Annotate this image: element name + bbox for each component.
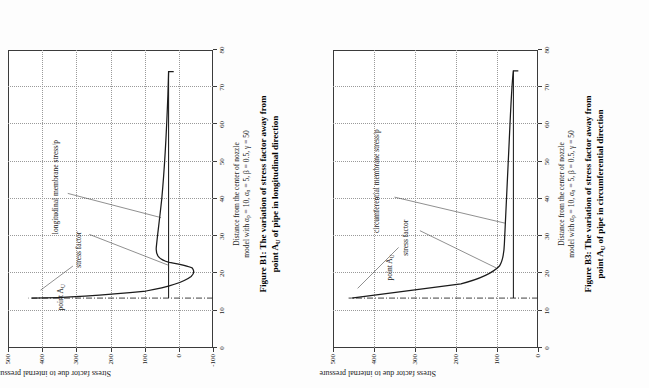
leader-membrane-b3 — [395, 197, 506, 223]
caption-line2-b3: model with αp = 10, αn = 5, β = 0.5, γ =… — [567, 6, 578, 382]
tick-x-10-b3 — [538, 310, 542, 311]
tick-x-60-b3 — [538, 124, 542, 125]
xticklabel-0-b3: 0 — [543, 346, 551, 350]
tick-x-70 — [213, 86, 217, 87]
yticklabel-n100: -100 — [209, 354, 217, 367]
leader-membrane-b1 — [68, 193, 161, 217]
yticklabel-500-b3: 500 — [329, 354, 337, 365]
tick-x-80-b3 — [538, 49, 542, 50]
yticklabel-200-b3: 200 — [452, 354, 460, 365]
tick-x-60 — [213, 124, 217, 125]
rotated-figure-b3: 0 10 20 30 40 50 60 70 80 500 400 300 20… — [325, 0, 649, 388]
tick-y-400-b3 — [374, 348, 375, 352]
yticklabel-400-b3: 400 — [370, 354, 378, 365]
yticklabel-100: 100 — [141, 354, 149, 365]
xticklabel-60: 60 — [218, 121, 226, 128]
plot-area-b1: 0 10 20 30 40 50 60 70 80 500 400 300 — [8, 50, 213, 348]
tick-x-50 — [213, 161, 217, 162]
yticklabel-300: 300 — [72, 354, 80, 365]
yticklabel-500: 500 — [4, 354, 12, 365]
annotation-point-au-b3: point AU — [386, 255, 395, 281]
tick-x-50-b3 — [538, 161, 542, 162]
tick-y-100-b3 — [497, 348, 498, 352]
tick-y-200-b3 — [456, 348, 457, 352]
annotation-membrane-b1: longitudinal membrane stress/p — [51, 140, 60, 234]
caption-main-a-b3: Figure B3: The variation of stress facto… — [583, 6, 595, 382]
annotation-stress-factor-b3: stress factor — [400, 220, 409, 256]
tick-y-100 — [145, 348, 146, 352]
caption-line2-b1: model with αp = 10, αn = 5, β = 0.5, γ =… — [242, 6, 253, 382]
tick-y-200 — [111, 348, 112, 352]
plot-area-b3: 0 10 20 30 40 50 60 70 80 500 400 300 20… — [333, 50, 538, 348]
rotated-figure-b1: 0 10 20 30 40 50 60 70 80 500 400 300 — [0, 0, 324, 388]
xticklabel-70: 70 — [218, 84, 226, 91]
tick-x-10 — [213, 310, 217, 311]
xticklabel-0: 0 — [218, 346, 226, 350]
yticklabel-300-b3: 300 — [411, 354, 419, 365]
curve-layer-b1 — [8, 50, 213, 348]
tick-y-500 — [8, 348, 9, 352]
tick-y-0 — [179, 348, 180, 352]
annotation-stress-factor-b1: stress factor — [73, 232, 82, 268]
tick-y-0-b3 — [538, 348, 539, 352]
caption-line1-b1: Distance from the center of nozzle — [232, 6, 242, 382]
tick-x-20 — [213, 273, 217, 274]
figure-page: 0 10 20 30 40 50 60 70 80 500 400 300 — [0, 0, 649, 388]
tick-x-40-b3 — [538, 198, 542, 199]
xticklabel-10-b3: 10 — [543, 307, 551, 314]
xticklabel-50-b3: 50 — [543, 158, 551, 165]
xticklabel-40: 40 — [218, 196, 226, 203]
xticklabel-20: 20 — [218, 270, 226, 277]
xticklabel-80: 80 — [218, 47, 226, 54]
tick-x-30 — [213, 235, 217, 236]
xticklabel-60-b3: 60 — [543, 121, 551, 128]
tick-y-n100 — [213, 348, 214, 352]
xticklabel-80-b3: 80 — [543, 47, 551, 54]
caption-line1-b3: Distance from the center of nozzle — [557, 6, 567, 382]
yticklabel-0: 0 — [175, 354, 183, 358]
xticklabel-40-b3: 40 — [543, 196, 551, 203]
yticklabel-100-b3: 100 — [493, 354, 501, 365]
caption-b1: Distance from the center of nozzle model… — [232, 6, 283, 382]
y-axis-title-b1: Stress factor due to internal pressure — [0, 369, 111, 378]
tick-y-500-b3 — [333, 348, 334, 352]
tick-x-80 — [213, 49, 217, 50]
tick-x-40 — [213, 198, 217, 199]
annotation-membrane-b3: circumferential membrane stress/p — [372, 129, 381, 233]
tick-x-20-b3 — [538, 273, 542, 274]
yticklabel-400: 400 — [38, 354, 46, 365]
annotation-point-au-b1: point AU — [57, 284, 66, 310]
caption-b3: Distance from the center of nozzle model… — [557, 6, 608, 382]
xticklabel-30: 30 — [218, 233, 226, 240]
y-axis-title-b3: Stress factor due to internal pressure — [319, 369, 436, 378]
curve-layer-b3 — [333, 50, 538, 348]
xticklabel-30-b3: 30 — [543, 233, 551, 240]
leader-stress-factor-b3 — [420, 231, 496, 268]
caption-main-b-b1: point AU of pipe in longitudinal directi… — [270, 6, 283, 382]
tick-y-300 — [76, 348, 77, 352]
xticklabel-50: 50 — [218, 158, 226, 165]
caption-main-a-b1: Figure B1: The variation of stress facto… — [258, 6, 270, 382]
caption-main-b-b3: point AU of pipe in circumferential dire… — [595, 6, 608, 382]
yticklabel-200: 200 — [107, 354, 115, 365]
xticklabel-20-b3: 20 — [543, 270, 551, 277]
figure-panel-b1: 0 10 20 30 40 50 60 70 80 500 400 300 — [0, 0, 324, 388]
xticklabel-10: 10 — [218, 307, 226, 314]
tick-x-70-b3 — [538, 86, 542, 87]
yticklabel-0-b3: 0 — [534, 354, 542, 358]
xticklabel-70-b3: 70 — [543, 84, 551, 91]
figure-panel-b3: 0 10 20 30 40 50 60 70 80 500 400 300 20… — [325, 0, 649, 388]
tick-y-300-b3 — [415, 348, 416, 352]
tick-y-400 — [42, 348, 43, 352]
tick-x-30-b3 — [538, 235, 542, 236]
